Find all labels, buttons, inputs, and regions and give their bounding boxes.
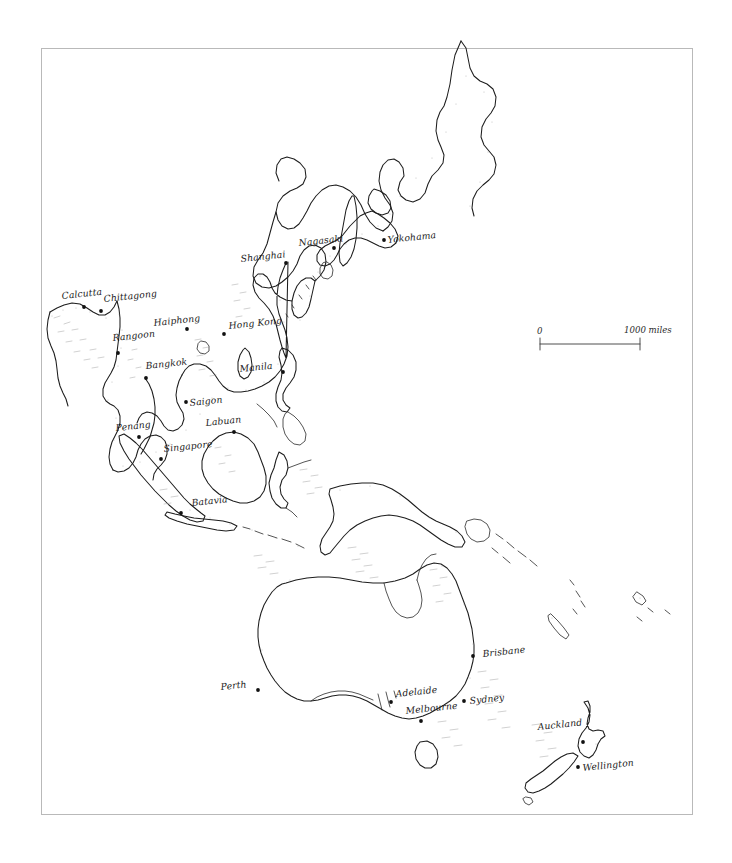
city-marker-shanghai[interactable]: Shanghai [240,248,288,265]
city-dot[interactable] [232,430,236,434]
coastline-vanuatu [570,580,585,614]
coastal-shading [54,284,556,757]
city-label: Melbourne [404,700,458,717]
city-marker-perth[interactable]: Perth [219,678,260,692]
map-canvas: 0 1000 miles CalcuttaChittagongRangoonBa… [0,0,732,863]
city-dot[interactable] [185,327,189,331]
coastline-gulf-of-siam [141,378,155,454]
city-marker-yokohama[interactable]: Yokohama [382,229,437,245]
city-label: Rangoon [111,328,155,343]
coastline-new-guinea [320,483,465,555]
city-label: Nagasaki [297,232,344,248]
coastline-palawan [257,404,277,427]
city-dot[interactable] [576,765,580,769]
city-label: Manila [238,360,273,375]
city-dot[interactable] [281,370,285,374]
coastline-philippines-south [283,412,306,445]
city-dot[interactable] [144,376,148,380]
map-frame [42,49,693,815]
city-marker-batavia[interactable]: Batavia [179,493,228,515]
coastline-new-caledonia [548,614,569,639]
city-label: Shanghai [240,248,286,264]
city-label: Sydney [469,691,505,706]
city-dot[interactable] [184,400,188,404]
coastline-okhotsk-north [461,41,496,216]
city-dot[interactable] [382,238,386,242]
city-label: Auckland [536,716,583,732]
city-label: Chittagong [103,287,157,304]
coastline-japan-kyushu [320,262,333,279]
city-marker-saigon[interactable]: Saigon [184,394,223,408]
coastline-sulawesi-arm [286,460,311,517]
coastline-nz-stewart [523,797,533,805]
city-marker-rangoon[interactable]: Rangoon [111,328,155,355]
city-dot[interactable] [471,654,475,658]
city-dot[interactable] [419,719,423,723]
city-dot[interactable] [116,351,120,355]
city-dot[interactable] [179,511,183,515]
map-illustration: 0 1000 miles CalcuttaChittagongRangoonBa… [0,0,732,863]
city-dot[interactable] [137,435,141,439]
city-dot[interactable] [462,699,466,703]
city-label: Wellington [582,757,634,773]
coastline-new-britain [465,519,490,542]
city-label: Batavia [190,493,228,508]
city-dot[interactable] [332,246,336,250]
city-marker-sydney[interactable]: Sydney [462,691,505,706]
city-dot[interactable] [82,305,86,309]
city-dot[interactable] [256,688,260,692]
city-marker-adelaide[interactable]: Adelaide [389,684,438,704]
scale-bar: 0 1000 miles [537,325,672,350]
coastline-sulawesi [269,452,288,508]
city-marker-chittagong[interactable]: Chittagong [99,287,157,312]
city-label: Labuan [204,413,242,428]
city-marker-wellington[interactable]: Wellington [576,757,634,773]
coastline-korea [292,278,315,318]
coastline-kamchatka [379,41,461,231]
city-label: Perth [219,678,247,692]
city-label: Hong Kong [227,314,282,331]
city-label: Haiphong [152,312,201,328]
city-marker-singapore[interactable]: Singapore [159,438,213,461]
coastline-arakan [47,312,68,406]
coastline-carpentaria [384,580,422,618]
coastline-nz-south [525,753,578,793]
city-label: Calcutta [61,286,103,301]
city-marker-haiphong[interactable]: Haiphong [152,312,201,331]
city-label: Bangkok [144,356,188,371]
coastline-cape-york [417,554,436,580]
city-dot[interactable] [222,332,226,336]
coastline-spencer-gulf [378,691,396,710]
city-label: Brisbane [481,644,526,660]
coastline-sakhalin [339,196,357,266]
city-dot[interactable] [581,740,585,744]
city-marker-manila[interactable]: Manila [238,360,285,375]
coastline-solomons [492,534,537,566]
coastline-tasmania [415,741,438,768]
coastline-fiji [633,592,670,621]
city-marker-melbourne[interactable]: Melbourne [404,700,458,723]
coastline-australia [258,563,474,719]
city-label: Yokohama [387,229,437,245]
coastline-burma-west [103,301,120,470]
city-marker-labuan[interactable]: Labuan [204,413,242,434]
city-marker-auckland[interactable]: Auckland [536,716,585,744]
city-marker-brisbane[interactable]: Brisbane [471,644,526,660]
city-dot[interactable] [99,309,103,313]
coastal-stipple [51,75,640,792]
city-label: Adelaide [394,684,438,699]
city-dot[interactable] [389,700,393,704]
city-marker-hong-kong[interactable]: Hong Kong [222,314,282,335]
coastline-okhotsk-west [276,157,383,231]
coastline-nz-north [578,701,605,758]
city-label: Saigon [189,394,223,408]
city-dot[interactable] [159,457,163,461]
scale-bar-start-label: 0 [537,326,543,336]
scale-bar-end-label: 1000 miles [624,325,672,335]
city-dot[interactable] [284,261,288,265]
